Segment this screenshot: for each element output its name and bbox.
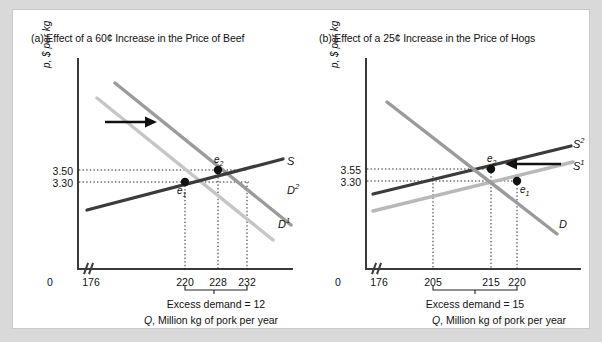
panel-b-x-axis-title: Q, Million kg of pork per year: [432, 314, 566, 326]
panel-b-excess-demand-label: Excess demand = 15: [426, 298, 524, 310]
panel-a-curves: [77, 58, 293, 276]
panel-b-xtick-205: 205: [424, 276, 442, 288]
panel-a-ytick-330: 3.30: [53, 177, 73, 189]
panel-b-x-axis-symbol: Q: [432, 314, 440, 326]
panel-a-zero-label: 0: [47, 276, 53, 288]
panel-a-xtick-220: 220: [176, 276, 194, 288]
panel-b-equilibrium-point-e2: [487, 165, 495, 173]
panel-a-excess-demand-label: Excess demand = 12: [167, 298, 265, 310]
panel-a-equilibrium-point-e2: [214, 166, 222, 174]
panel-b-x-axis-units: , Million kg of pork per year: [440, 314, 566, 326]
panel-b-ytick-355: 3.55: [341, 164, 361, 176]
panel-b-xtick-176: 176: [370, 276, 388, 288]
panel-a-xtick-176: 176: [82, 276, 100, 288]
panel-b-xtick-215: 215: [482, 276, 500, 288]
panel-b-curve-D: [387, 102, 557, 234]
panel-b-ytick-330: 3.30: [341, 176, 361, 188]
panel-b-y-axis-symbol: p: [329, 62, 340, 68]
panel-a-title: (a) Effect of a 60¢ Increase in the Pric…: [31, 32, 244, 44]
panel-a-y-axis-units: , $ per kg: [41, 21, 52, 63]
panel-a-label-D1: D1: [278, 216, 290, 230]
panel-a-eq-label-e1: e1: [177, 185, 186, 198]
panel-a-eq-label-e2: e2: [214, 154, 223, 167]
panel-a-label-D2: D2: [287, 182, 299, 196]
panel-b-y-axis-units: , $ per kg: [329, 21, 340, 63]
panel-a-ytick-350: 3.50: [53, 165, 73, 177]
panel-a: (a) Effect of a 60¢ Increase in the Pric…: [21, 10, 309, 328]
panel-b-eq-label-e2: e2: [487, 153, 496, 166]
panel-b-title: (b) Effect of a 25¢ Increase in the Pric…: [319, 32, 535, 44]
panel-a-x-axis-units: , Million kg of pork per year: [152, 314, 278, 326]
panel-a-x-axis-symbol: Q: [144, 314, 152, 326]
panel-b: (b) Effect of a 25¢ Increase in the Pric…: [309, 10, 597, 328]
panel-b-excess-demand-brace: [433, 286, 517, 294]
panel-b-label-D: D: [559, 218, 567, 230]
panel-a-y-axis-label: p, $ per kg: [41, 21, 52, 68]
panel-a-y-axis-symbol: p: [41, 62, 52, 68]
panel-a-curve-D2: [115, 83, 291, 225]
panel-b-curves: [365, 58, 581, 276]
figure-page: (a) Effect of a 60¢ Increase in the Pric…: [13, 10, 589, 328]
panel-a-x-axis-title: Q, Million kg of pork per year: [144, 314, 278, 326]
panel-a-xtick-228: 228: [209, 276, 227, 288]
panel-a-xtick-232: 232: [238, 276, 256, 288]
panel-a-plot: 3.50 3.30: [77, 58, 293, 276]
panel-b-label-S2: S2: [573, 136, 585, 150]
panel-b-plot: 3.55 3.30: [365, 58, 581, 276]
panel-b-zero-label: 0: [335, 276, 341, 288]
panel-b-xtick-220: 220: [508, 276, 526, 288]
panel-b-label-S1: S1: [573, 158, 585, 172]
panel-b-y-axis-label: p, $ per kg: [329, 21, 340, 68]
panel-a-label-S: S: [287, 155, 294, 167]
panel-b-eq-label-e1: e1: [520, 184, 529, 197]
